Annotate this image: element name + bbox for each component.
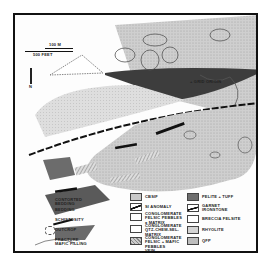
swatch-conglomerate-mafic <box>130 237 142 245</box>
legend-bedding: BEDDING <box>55 208 75 212</box>
pelite-lower <box>43 157 75 180</box>
legend-pelite-tuff: PELITE + TUFF <box>202 195 233 199</box>
scale-metric: 100 m <box>49 43 61 47</box>
swatch-conglomerate-qtz <box>130 225 142 233</box>
legend-outcrop: OUTCROP <box>55 228 76 232</box>
legend-rhyolite: RHYOLITE <box>202 228 224 232</box>
outcrop-symbol-icon <box>45 226 55 235</box>
swatch-si-anomaly <box>130 203 142 211</box>
legend-si-anomaly: SI ANOMALY <box>145 205 172 209</box>
swatch-cbsif <box>130 193 142 201</box>
swatch-pelite-tuff <box>187 193 199 201</box>
swatch-rhyolite <box>187 226 199 234</box>
geologic-map-frame: 100 m 500 feet N + GRID ORIGIN CONTORTED… <box>13 13 258 253</box>
legend-fracture: FRACTURE, MAFIC FILLING <box>55 238 91 247</box>
legend-cbsif: CBSIF <box>145 195 158 199</box>
legend-garnet-ironstone: GARNET IRONSTONE <box>202 204 234 213</box>
north-arrow-icon <box>30 68 32 84</box>
scale-bar: 100 m 500 feet <box>25 45 75 61</box>
legend-vein: VEIN <box>145 249 155 253</box>
scale-imperial: 500 feet <box>33 53 53 57</box>
swatch-qfp <box>187 237 199 245</box>
legend-schistosity: SCHISTOSITY <box>55 218 84 222</box>
swatch-conglomerate-felsic <box>130 213 142 221</box>
grid-origin-label: + GRID ORIGIN <box>190 80 221 84</box>
legend-qfp: QFP <box>202 239 211 243</box>
legend-contorted-bedding: CONTORTED BEDDING <box>55 198 95 207</box>
north-label: N <box>29 85 32 89</box>
swatch-garnet-ironstone <box>187 204 199 212</box>
legend-breccia-felsite: BRECCIA FELSITE <box>202 217 241 221</box>
swatch-breccia-felsite <box>187 215 199 223</box>
